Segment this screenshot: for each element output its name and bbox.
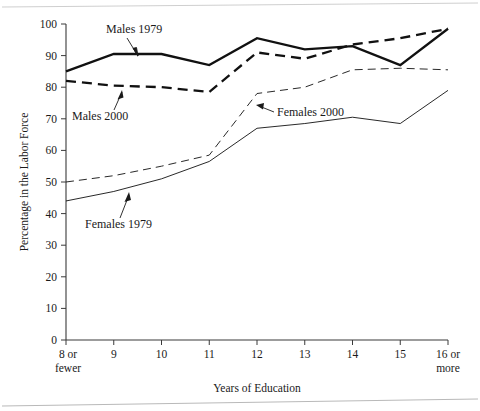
series-line-females-1979: [66, 90, 448, 201]
y-axis-title: Percentage in the Labor Force: [18, 113, 31, 252]
x-tick-label-second-line: more: [436, 362, 460, 374]
annotation-label-females-1979: Females 1979: [85, 217, 152, 231]
x-tick-label: 16 or: [436, 348, 460, 360]
y-tick-label: 0: [51, 334, 57, 346]
y-tick-label: 90: [46, 50, 58, 62]
annotation-label-males-1979: Males 1979: [106, 22, 162, 36]
x-tick-label: 14: [347, 348, 359, 360]
x-tick-label-second-line: fewer: [55, 362, 81, 374]
axes: [66, 24, 448, 340]
y-axis-ticks: [61, 24, 66, 340]
annotation-females-1979: Females 1979: [85, 192, 152, 231]
x-tick-label: 15: [395, 348, 407, 360]
x-tick-label: 10: [156, 348, 168, 360]
x-axis-tick-labels: 8 or fewer 9 10 11 12 13 14 15 16 or mor…: [55, 348, 460, 374]
line-chart-svg: 0 10 20 30 40 50 60 70 80 90 100 8 or fe…: [0, 0, 480, 411]
page-top-edge-line: [2, 3, 478, 7]
y-tick-label: 70: [46, 113, 58, 125]
y-tick-label: 50: [46, 176, 58, 188]
y-tick-label: 30: [46, 239, 58, 251]
x-tick-label: 9: [111, 348, 117, 360]
x-tick-label: 12: [251, 348, 263, 360]
annotation-males-2000: Males 2000: [72, 90, 128, 123]
y-tick-label: 80: [46, 81, 58, 93]
annotation-label-males-2000: Males 2000: [72, 109, 128, 123]
chart-figure: 0 10 20 30 40 50 60 70 80 90 100 8 or fe…: [0, 0, 480, 411]
y-tick-label: 20: [46, 271, 58, 283]
x-tick-label: 8 or: [59, 348, 77, 360]
annotation-females-2000: Females 2000: [256, 103, 344, 119]
y-tick-label: 10: [46, 302, 58, 314]
annotation-label-females-2000: Females 2000: [277, 105, 344, 119]
page-edge-line: [2, 399, 478, 406]
x-tick-label: 13: [299, 348, 311, 360]
y-tick-label: 100: [40, 18, 58, 30]
y-tick-label: 40: [46, 208, 58, 220]
x-axis-ticks: [66, 340, 448, 345]
annotation-males-1979: Males 1979: [106, 22, 162, 57]
y-axis-tick-labels: 0 10 20 30 40 50 60 70 80 90 100: [40, 18, 58, 346]
y-tick-label: 60: [46, 144, 58, 156]
x-tick-label: 11: [204, 348, 215, 360]
x-axis-title: Years of Education: [213, 382, 301, 394]
